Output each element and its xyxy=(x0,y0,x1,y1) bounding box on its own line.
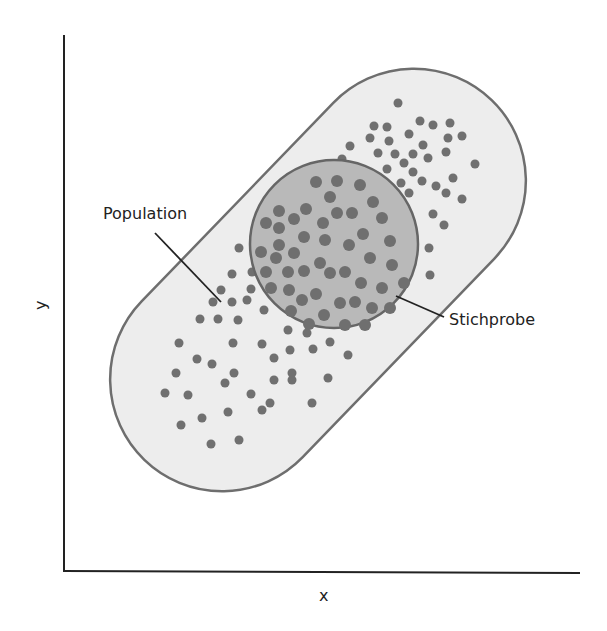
x-axis xyxy=(63,571,580,573)
sample-label: Stichprobe xyxy=(449,310,535,329)
y-axis-label: y xyxy=(31,301,50,310)
x-axis-label: x xyxy=(319,586,328,605)
population-label: Population xyxy=(103,204,187,223)
population-sample-diagram: Population Stichprobe x y xyxy=(0,0,607,631)
